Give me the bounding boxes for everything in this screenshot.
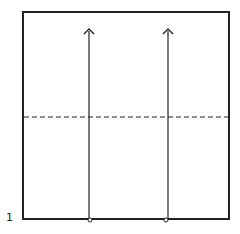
left-arrow-icon [84,29,94,222]
paper-square [23,12,229,219]
folding-diagram [0,0,240,234]
right-arrow-icon [163,29,173,222]
